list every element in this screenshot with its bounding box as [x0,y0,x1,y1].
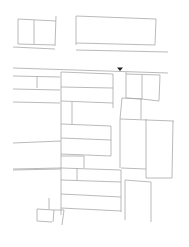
parcel-lines [13,16,174,225]
parcel-edge [125,180,151,182]
parcel-edge [18,19,56,21]
parcel-edge [61,168,121,170]
parcel-edge [142,99,159,101]
parcel-edge [18,44,55,45]
parcel-edge [13,89,60,90]
parcel-edge [61,180,121,182]
parcel-edge [76,50,168,52]
parcel-edge [61,124,111,126]
parcel-edge [126,74,160,75]
location-arrow-icon[interactable] [117,68,123,72]
parcel-edge [13,76,60,77]
parcel-edge [13,102,60,103]
parcel-edge [37,221,52,222]
parcel-edge [61,101,113,103]
parcel-edge [53,210,54,222]
parcel-edge [61,87,113,88]
parcel-edge [122,98,142,99]
map-canvas[interactable] [0,0,189,247]
parcel-edge [76,43,155,45]
parcel-edge [37,209,54,210]
parcel-edge [120,119,174,121]
parcel-edge [76,16,156,19]
parcel-edge [121,168,146,169]
building-outlines [0,0,189,247]
parcel-edge [61,208,121,211]
parcel-edge [62,210,64,225]
parcel-edge [61,138,111,140]
parcel-edge [13,47,55,49]
parcel-edge [13,68,168,73]
parcel-edge [61,72,113,74]
parcel-edge [155,19,156,45]
parcel-edge [172,121,173,178]
parcel-edge [159,75,160,101]
parcel-edge [55,16,56,46]
parcel-edge [120,98,122,119]
parcel-edge [61,194,121,197]
parcel-edge [13,141,61,143]
